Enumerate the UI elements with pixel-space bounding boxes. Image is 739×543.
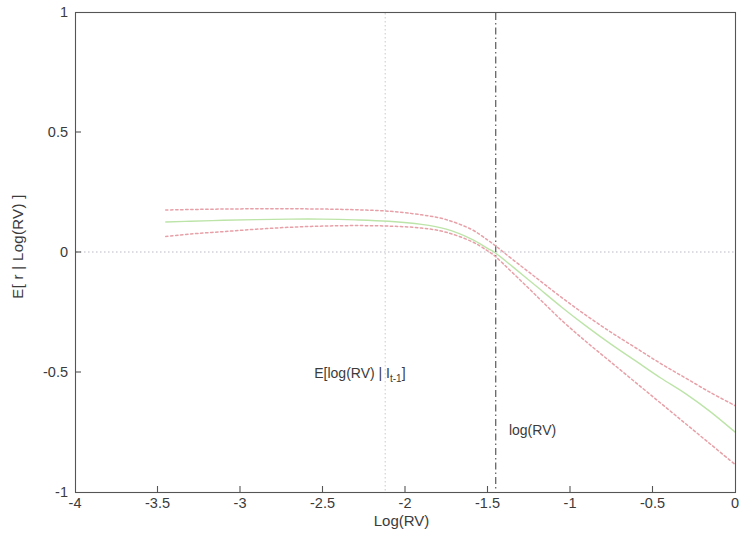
x-axis-title: Log(RV) — [374, 512, 430, 529]
y-tick-label: -1 — [28, 484, 68, 500]
series-1 — [166, 219, 735, 432]
x-tick-label: -0.5 — [640, 495, 665, 511]
x-tick-label: -2.5 — [310, 495, 335, 511]
x-tick-label: -1.5 — [475, 495, 500, 511]
y-tick-label: 1 — [28, 4, 68, 20]
x-tick-label: -2 — [399, 495, 412, 511]
expected-log-rv-annotation-sub: t-1 — [390, 373, 402, 384]
series-0 — [166, 209, 735, 406]
x-tick-label: -1 — [564, 495, 577, 511]
expected-log-rv-annotation-tail: ] — [402, 365, 406, 381]
y-tick-label: 0.5 — [28, 124, 68, 140]
x-tick-label: -3.5 — [145, 495, 170, 511]
x-tick-label: -4 — [69, 495, 82, 511]
expected-log-rv-annotation-text: E[log(RV) | I — [314, 365, 390, 381]
y-tick-label: -0.5 — [28, 364, 68, 380]
y-tick-label: 0 — [28, 244, 68, 260]
x-tick-label: 0 — [731, 495, 739, 511]
x-tick-label: -3 — [234, 495, 247, 511]
expected-log-rv-annotation: E[log(RV) | It-1] — [314, 365, 405, 384]
series-2 — [166, 226, 735, 465]
log-rv-annotation: log(RV) — [509, 422, 556, 438]
x-axis-title-wrap: Log(RV) — [0, 512, 737, 529]
